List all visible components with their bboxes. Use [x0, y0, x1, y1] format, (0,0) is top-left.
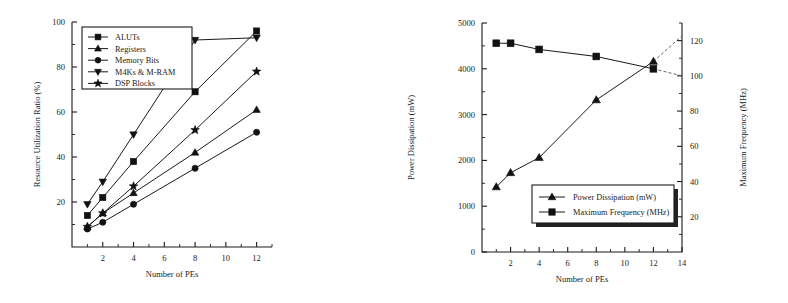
series-line-registers — [87, 110, 256, 227]
datapoint-triangle-down — [253, 35, 260, 42]
datapoint-triangle-up — [649, 57, 657, 64]
datapoint-square — [254, 28, 260, 34]
series-extrapolation-dashed — [653, 69, 682, 76]
svg-text:2: 2 — [101, 253, 105, 263]
right-chart-legend: Power Dissipation (mW)Maximum Frequency … — [532, 185, 678, 227]
svg-text:1000: 1000 — [458, 201, 475, 211]
svg-text:80: 80 — [690, 106, 699, 116]
svg-text:80: 80 — [57, 62, 66, 72]
svg-text:40: 40 — [57, 152, 66, 162]
datapoint-square — [493, 40, 500, 47]
right-y-axis-title-right: Maximum Frequency (MHz) — [738, 88, 748, 187]
legend-marker-square — [95, 34, 101, 40]
power-frequency-chart: 0100020003000400050002040608010012024681… — [394, 0, 788, 303]
resource-utilization-chart: 2040608010024681012 ALUTsRegistersMemory… — [0, 0, 394, 303]
datapoint-triangle-up — [592, 96, 600, 103]
datapoint-circle — [192, 165, 198, 171]
svg-text:8: 8 — [594, 258, 598, 268]
svg-text:2: 2 — [508, 258, 512, 268]
svg-text:14: 14 — [678, 258, 687, 268]
datapoint-square — [84, 212, 90, 218]
datapoint-square — [100, 194, 106, 200]
left-chart-svg: 2040608010024681012 ALUTsRegistersMemory… — [0, 0, 394, 303]
legend-label-aluts: ALUTs — [115, 33, 140, 42]
legend-label-power-dissipation-mw: Power Dissipation (mW) — [573, 193, 656, 202]
datapoint-triangle-down — [130, 132, 137, 139]
svg-text:100: 100 — [690, 71, 703, 81]
left-chart-legend: ALUTsRegistersMemory BitsM4Ks & M-RAMDSP… — [82, 27, 192, 89]
datapoint-square — [130, 158, 136, 164]
legend-label-registers: Registers — [115, 45, 146, 54]
legend-label-maximum-frequency-mhz: Maximum Frequency (MHz) — [573, 208, 670, 217]
series-line-power-dissipation-mw — [496, 61, 653, 186]
series-line-maximum-frequency-mhz — [496, 43, 653, 69]
series-line-dsp-blocks — [87, 72, 256, 227]
left-y-axis-title: Resource Utilization Ratio (%) — [32, 82, 42, 188]
svg-text:0: 0 — [471, 247, 475, 257]
datapoint-triangle-down — [99, 179, 106, 186]
datapoint-square — [650, 65, 657, 72]
svg-text:60: 60 — [690, 141, 699, 151]
figure-container: 2040608010024681012 ALUTsRegistersMemory… — [0, 0, 788, 303]
datapoint-square — [507, 40, 514, 47]
svg-text:4000: 4000 — [458, 64, 475, 74]
right-chart-axes: 0100020003000400050002040608010012024681… — [458, 18, 703, 268]
left-x-axis-title: Number of PEs — [146, 269, 198, 279]
legend-label-dsp-blocks: DSP Blocks — [115, 79, 155, 88]
legend-marker-circle — [95, 57, 101, 63]
svg-text:8: 8 — [193, 253, 197, 263]
right-chart-series — [492, 36, 682, 190]
svg-text:5000: 5000 — [458, 18, 475, 28]
svg-text:2000: 2000 — [458, 155, 475, 165]
datapoint-square — [536, 46, 543, 53]
datapoint-square — [192, 89, 198, 95]
datapoint-square — [593, 53, 600, 60]
svg-text:120: 120 — [690, 36, 703, 46]
svg-text:20: 20 — [57, 197, 66, 207]
svg-text:6: 6 — [566, 258, 570, 268]
datapoint-circle — [100, 219, 106, 225]
right-chart-svg: 0100020003000400050002040608010012024681… — [394, 0, 788, 303]
legend-box — [532, 185, 674, 223]
svg-text:3000: 3000 — [458, 110, 475, 120]
legend-marker-square — [549, 209, 555, 215]
series-extrapolation-dashed — [653, 36, 682, 62]
right-y-axis-title-left: Power Dissipation (mW) — [406, 95, 416, 180]
svg-text:10: 10 — [222, 253, 231, 263]
svg-text:12: 12 — [649, 258, 658, 268]
legend-label-memory-bits: Memory Bits — [115, 56, 159, 65]
svg-text:10: 10 — [621, 258, 630, 268]
datapoint-triangle-up — [506, 169, 514, 176]
svg-text:4: 4 — [537, 258, 542, 268]
legend-label-m4ks-m-ram: M4Ks & M-RAM — [115, 68, 176, 77]
svg-text:40: 40 — [690, 177, 699, 187]
datapoint-circle — [254, 129, 260, 135]
right-x-axis-title: Number of PEs — [556, 274, 608, 284]
datapoint-triangle-down — [84, 202, 91, 209]
series-line-memory-bits — [87, 132, 256, 229]
svg-text:6: 6 — [162, 253, 166, 263]
svg-text:60: 60 — [57, 107, 66, 117]
svg-text:12: 12 — [252, 253, 261, 263]
datapoint-triangle-up — [253, 106, 260, 113]
svg-text:4: 4 — [131, 253, 136, 263]
datapoint-triangle-up — [191, 149, 198, 156]
svg-text:20: 20 — [690, 212, 699, 222]
datapoint-circle — [130, 201, 136, 207]
svg-text:100: 100 — [52, 17, 65, 27]
